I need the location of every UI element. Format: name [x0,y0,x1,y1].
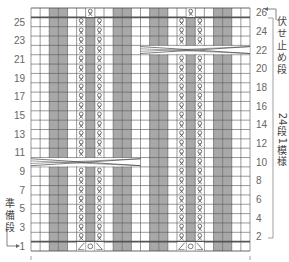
row-label-left: 11 [15,147,26,158]
row-label-right: 16 [256,101,268,112]
row-label-left: 7 [19,185,25,196]
row-label-left: 15 [14,110,26,121]
annotation-char: 準 [5,197,15,209]
annotation-char: 24 [277,113,288,126]
row-label-left: 3 [19,222,25,233]
knitting-chart: 1357911131517192123252468101214161820222… [0,0,289,262]
annotation-char: 段 [277,63,287,75]
row-label-left: 1 [19,241,25,252]
row-label-left: 21 [14,54,26,65]
row-label-left: 25 [14,17,26,28]
annotation-char: 段 [277,125,287,137]
annotation-char: 模 [277,145,287,156]
setup-cell [187,242,195,251]
row-label-left: 17 [14,91,26,102]
row-label-right: 14 [256,119,268,130]
row-label-right: 20 [256,63,268,74]
setup-cell [86,242,94,251]
row-label-left: 9 [19,166,25,177]
row-label-left: 13 [14,129,26,140]
bind-off-label: 伏せ止め段 [277,15,287,75]
row-label-right: 22 [256,45,268,56]
row-label-right: 10 [256,157,268,168]
annotation-char: 様 [277,155,287,167]
row-label-left: 5 [19,203,25,214]
setup-label: 準備段 [5,197,15,233]
repeat-label: 24段1模様 [277,113,288,167]
annotation-char: せ [277,28,287,39]
row-label-left: 23 [14,35,26,46]
annotation-char: 止 [277,40,287,51]
annotation-char: め [277,52,287,63]
row-label-right: 4 [256,213,262,224]
repeat-bracket [268,18,273,238]
annotation-char: 1 [277,138,288,144]
row-label-right: 18 [256,82,268,93]
annotation-char: 段 [5,221,15,233]
row-label-right: 12 [256,138,268,149]
row-label-right: 24 [256,26,268,37]
row-label-right: 2 [256,231,262,242]
annotation-char: 備 [5,209,15,221]
row-label-right: 8 [256,175,262,186]
annotation-char: 伏 [277,15,287,27]
row-label-left: 19 [14,73,26,84]
row-label-right: 6 [256,194,262,205]
